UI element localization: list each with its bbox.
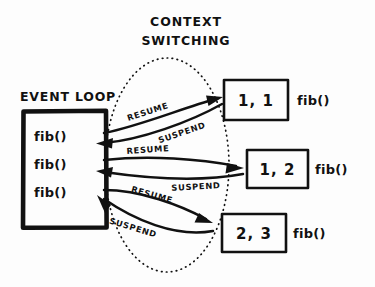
coroutine-label-3: fib(): [293, 226, 326, 241]
resume-label-2: RESUME: [126, 143, 169, 156]
resume-label-3: RESUME: [130, 184, 174, 205]
resume-label-1: RESUME: [126, 100, 170, 123]
event-loop-task-2: fib(): [34, 157, 67, 172]
event-loop-title: EVENT LOOP: [20, 89, 116, 104]
suspend-label-3: SUSPEND: [108, 216, 158, 240]
event-loop-task-1: fib(): [34, 129, 67, 144]
suspend-arrow-3-head: [97, 195, 111, 213]
coroutine-label-1: fib(): [297, 93, 330, 108]
context-switching-diagram: RESUME SUSPEND RESUME SUSPEND RESUME SUS…: [0, 0, 375, 287]
resume-arrow-2-line: [104, 158, 236, 166]
coroutine-label-2: fib(): [315, 162, 348, 177]
diagram-title-line1: CONTEXT: [150, 14, 222, 29]
context-switching-ellipse: [105, 58, 229, 272]
diagram-title-line2: SWITCHING: [141, 33, 230, 48]
coroutine-value-3: 2, 3: [236, 225, 272, 243]
diagram-canvas: RESUME SUSPEND RESUME SUSPEND RESUME SUS…: [0, 0, 375, 287]
event-loop-task-3: fib(): [34, 185, 67, 200]
coroutine-value-2: 1, 2: [260, 161, 296, 179]
coroutine-value-1: 1, 1: [238, 92, 274, 110]
suspend-arrow-2-line: [104, 172, 243, 178]
suspend-label-2: SUSPEND: [171, 180, 221, 193]
